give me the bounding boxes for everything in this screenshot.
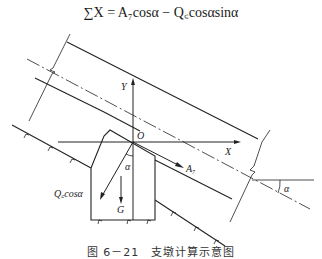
gravity-label: G [117,204,124,215]
left-break-line [29,34,70,121]
x-axis-arrow-icon [234,140,241,144]
thrust-arrow-icon [175,162,184,168]
figure-caption: 图 6－21 支墩计算示意图 [0,243,322,259]
origin-label: O [137,130,144,141]
pipe-upper-wall [67,42,258,139]
component-label: Q꜀cosα [54,188,84,199]
pipe-lower-wall-left [35,78,104,112]
pipe-angle-label: α [284,183,290,194]
ground-hatch-bottom [98,220,151,224]
x-axis-label: X [224,146,232,157]
y-axis-arrow-icon [131,78,135,85]
block-angle-label: α [125,161,131,172]
ground-left [12,125,91,168]
y-axis-label: Y [121,81,128,92]
ground-hatch-right [171,212,219,244]
ground-hatch-left [24,134,75,163]
pipe-angle-arc [278,180,280,193]
right-break-line [230,130,270,222]
ground-right [155,200,225,246]
thrust-label: A₇ [185,163,196,174]
